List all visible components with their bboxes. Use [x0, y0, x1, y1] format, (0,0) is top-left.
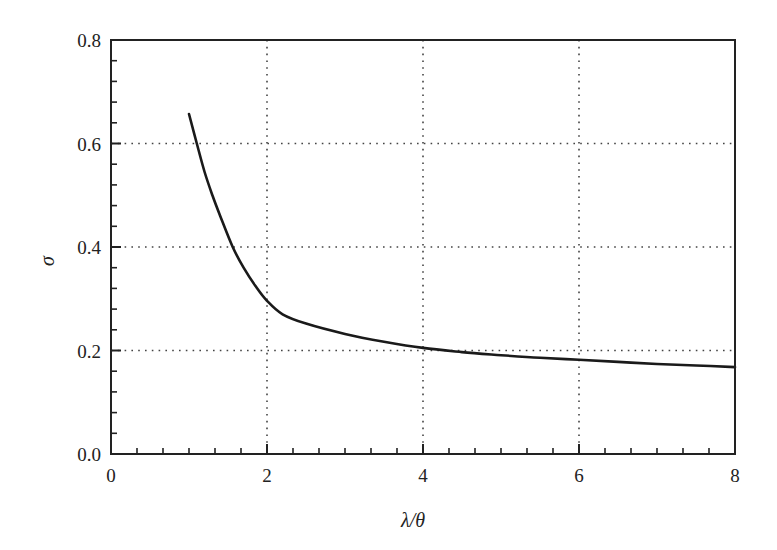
line-chart: 02468 0.00.20.40.60.8 λ/θ σ [0, 0, 777, 550]
svg-text:4: 4 [418, 465, 428, 486]
y-tick-labels: 0.00.20.40.60.8 [77, 30, 101, 465]
x-axis-label: λ/θ [400, 509, 425, 531]
svg-text:8: 8 [730, 465, 740, 486]
svg-text:0.0: 0.0 [77, 444, 101, 465]
minor-ticks [111, 61, 709, 454]
svg-text:0.4: 0.4 [77, 237, 101, 258]
svg-text:0.6: 0.6 [77, 134, 101, 155]
grid-lines [111, 40, 735, 454]
x-tick-labels: 02468 [106, 465, 740, 486]
y-axis-label: σ [36, 255, 58, 266]
svg-text:0: 0 [106, 465, 116, 486]
svg-text:6: 6 [574, 465, 584, 486]
svg-text:0.8: 0.8 [77, 30, 101, 51]
sigma-curve [189, 114, 735, 367]
svg-text:2: 2 [262, 465, 272, 486]
svg-text:0.2: 0.2 [77, 341, 101, 362]
